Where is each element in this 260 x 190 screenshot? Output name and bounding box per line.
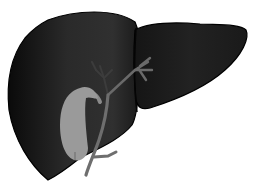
liver-graphic xyxy=(0,0,260,190)
duct-branch xyxy=(94,152,116,157)
liver-illustration xyxy=(0,0,260,190)
left-lobe xyxy=(134,23,247,109)
